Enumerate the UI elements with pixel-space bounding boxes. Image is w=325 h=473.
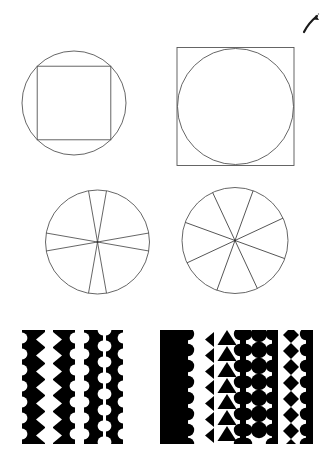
black-strip [22,330,45,444]
white-channel [182,330,214,444]
figure-square-in-circle [14,42,142,170]
figure-circle-in-square [172,42,300,174]
figure-plate [0,0,325,473]
white-channel-group [182,330,312,444]
pie-center-dot [234,239,236,241]
ink-stroke-drawing [300,12,322,38]
figure-pie-eight-sectors-rotated [178,183,296,301]
inscribed-square [37,66,111,140]
figure-ground-white-field [22,330,123,444]
circle-in-square-drawing [172,42,300,174]
pie-center-dot [96,241,98,243]
hand-drawn-check-mark-icon [300,12,322,38]
inscribed-circle [178,49,294,165]
pie-rotated-drawing [178,183,296,301]
black-strip [53,330,80,444]
diamond-column [278,330,312,444]
ink-speck [318,13,319,14]
circle-column [240,330,278,444]
figure-pie-eight-sectors-aligned [40,185,156,301]
figure-ground-black-field [160,330,313,444]
strip-group [22,330,123,444]
pie-aligned-drawing [40,185,156,301]
black-strip [101,330,123,444]
square-in-circle-drawing [14,42,142,170]
white-field-pattern [22,330,123,444]
black-field-pattern [160,330,313,444]
